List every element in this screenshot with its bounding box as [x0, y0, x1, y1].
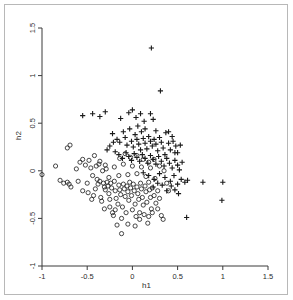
- point-circle: [128, 186, 132, 190]
- point-circle: [85, 181, 89, 185]
- point-plus: [172, 187, 177, 192]
- point-plus: [130, 107, 135, 112]
- point-plus: [123, 135, 128, 140]
- point-plus: [170, 134, 175, 139]
- point-plus: [220, 180, 225, 185]
- point-plus: [111, 140, 116, 145]
- point-plus: [146, 173, 151, 178]
- point-plus: [127, 126, 132, 131]
- point-circle: [126, 190, 130, 194]
- point-circle: [91, 173, 95, 177]
- point-plus: [161, 145, 166, 150]
- point-plus: [142, 156, 147, 161]
- point-plus: [167, 161, 172, 166]
- point-circle: [111, 213, 115, 217]
- point-circle: [53, 164, 57, 168]
- point-plus: [145, 161, 150, 166]
- point-plus: [175, 182, 180, 187]
- point-plus: [171, 173, 176, 178]
- point-plus: [158, 88, 163, 93]
- point-circle: [68, 143, 72, 147]
- x-tick-label: -0.5: [81, 272, 94, 281]
- point-circle: [139, 165, 143, 169]
- point-circle: [148, 166, 152, 170]
- point-plus: [138, 111, 143, 116]
- y-axis-label: h2: [14, 131, 23, 140]
- point-circle: [145, 200, 149, 204]
- y-tick-label: 1.5: [28, 23, 37, 33]
- point-plus: [176, 191, 181, 196]
- point-circle: [119, 216, 123, 220]
- point-plus: [219, 198, 224, 203]
- y-tick-label: 1: [28, 74, 37, 78]
- axes: -1-0.500.511.5-1-0.500.511.5: [28, 23, 273, 281]
- point-circle: [156, 207, 160, 211]
- point-circle: [113, 189, 117, 193]
- point-plus: [172, 158, 177, 163]
- point-circle: [154, 201, 158, 205]
- point-plus: [132, 151, 137, 156]
- point-circle: [58, 178, 62, 182]
- point-circle: [114, 196, 118, 200]
- point-plus: [149, 45, 154, 50]
- point-circle: [136, 192, 140, 196]
- point-plus: [159, 159, 164, 164]
- point-plus: [166, 129, 171, 134]
- point-circle: [162, 169, 166, 173]
- point-plus: [155, 181, 160, 186]
- point-plus: [80, 113, 85, 118]
- point-plus: [117, 140, 122, 145]
- point-circle: [146, 221, 150, 225]
- point-circle: [133, 202, 137, 206]
- y-tick-label: -0.5: [28, 212, 37, 225]
- point-circle: [127, 198, 131, 202]
- point-circle: [130, 208, 134, 212]
- point-plus: [113, 149, 118, 154]
- point-circle: [108, 197, 112, 201]
- point-plus: [151, 117, 156, 122]
- point-circle: [141, 203, 145, 207]
- point-circle: [143, 184, 147, 188]
- point-plus: [97, 114, 102, 119]
- point-circle: [76, 179, 80, 183]
- point-plus: [159, 140, 164, 145]
- point-plus: [157, 171, 162, 176]
- point-plus: [148, 111, 153, 116]
- point-plus: [129, 139, 134, 144]
- point-plus: [168, 147, 173, 152]
- point-circle: [83, 163, 87, 167]
- point-plus: [156, 154, 161, 159]
- point-plus: [175, 162, 180, 167]
- point-circle: [126, 222, 130, 226]
- x-tick-label: 0.5: [172, 272, 182, 281]
- point-circle: [135, 172, 139, 176]
- x-tick-label: 1: [221, 272, 225, 281]
- point-circle: [81, 189, 85, 193]
- point-circle: [124, 211, 128, 215]
- point-circle: [120, 205, 124, 209]
- point-circle: [123, 194, 127, 198]
- point-circle: [103, 188, 107, 192]
- point-circle: [138, 211, 142, 215]
- point-plus: [169, 183, 174, 188]
- data-points: [40, 45, 226, 235]
- point-plus: [142, 119, 147, 124]
- point-plus: [173, 143, 178, 148]
- point-plus: [146, 134, 151, 139]
- point-plus: [131, 144, 136, 149]
- point-circle: [103, 163, 107, 167]
- point-circle: [161, 217, 165, 221]
- point-plus: [170, 139, 175, 144]
- point-plus: [140, 152, 145, 157]
- point-plus: [178, 143, 183, 148]
- x-tick-label: 0: [130, 272, 134, 281]
- point-plus: [121, 129, 126, 134]
- point-plus: [172, 150, 177, 155]
- point-plus: [200, 180, 205, 185]
- point-circle: [129, 193, 133, 197]
- point-plus: [152, 177, 157, 182]
- point-circle: [110, 186, 114, 190]
- point-plus: [135, 123, 140, 128]
- point-plus: [110, 131, 115, 136]
- point-circle: [133, 224, 137, 228]
